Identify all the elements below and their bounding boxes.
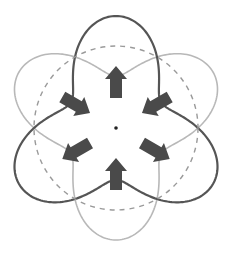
arrow-outward-icon (136, 133, 175, 168)
arrow-inward-icon (57, 87, 96, 122)
diagram-canvas (0, 0, 238, 255)
hexapole-diagram (0, 0, 238, 255)
arrow-inward-icon (105, 158, 127, 190)
arrow-outward-icon (57, 133, 96, 168)
arrow-inward-icon (136, 87, 175, 122)
center-dot (114, 126, 118, 130)
arrow-outward-icon (105, 66, 127, 98)
